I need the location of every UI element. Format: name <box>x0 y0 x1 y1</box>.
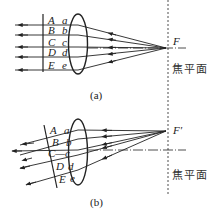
label-E-b: E <box>58 173 66 185</box>
label-b-a: b <box>62 24 68 36</box>
label-B-a: B <box>48 24 55 36</box>
label-b-b: b <box>66 136 72 148</box>
converging-rays-a <box>78 25 166 70</box>
focal-plane-label-b: 焦平面 <box>172 169 208 182</box>
label-d-b: d <box>68 160 74 172</box>
focus-label-b: F′ <box>172 124 183 136</box>
label-E-a: E <box>47 59 55 71</box>
focal-plane-label-a: 焦平面 <box>172 63 208 76</box>
label-A-b: A <box>49 124 57 136</box>
lens-a <box>69 14 88 74</box>
figure-a: A B C D E a b c d e F 焦平面 (a) <box>15 0 208 107</box>
figure-b: A B C—c D E a b d e F′ 焦平面 (b) <box>12 108 208 209</box>
label-e-b: e <box>70 172 75 184</box>
label-d-a: d <box>62 46 68 58</box>
focus-label-a: F <box>172 35 180 47</box>
label-e-a: e <box>62 59 67 71</box>
label-D-b: D <box>55 160 64 172</box>
caption-a: (a) <box>90 89 103 102</box>
lens-focus-diagram: A B C D E a b c d e F 焦平面 (a) <box>0 0 222 214</box>
caption-b: (b) <box>90 196 103 209</box>
label-c-connector-b: C—c <box>48 147 70 159</box>
label-D-a: D <box>47 46 56 58</box>
label-a-b: a <box>64 124 70 136</box>
